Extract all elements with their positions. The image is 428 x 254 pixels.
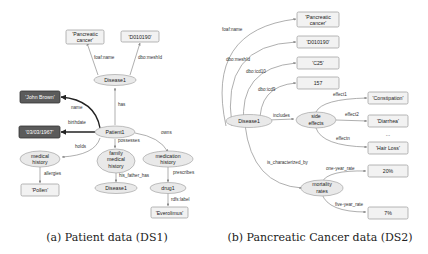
node-b-157: 157 <box>297 77 339 89</box>
edge-b-is-characterized-by <box>245 125 302 188</box>
label-holds: holds <box>75 144 87 149</box>
ellipsis: ... <box>386 131 390 137</box>
edge-owns <box>135 133 168 152</box>
label-b-foaf-name: foaf:name <box>222 27 243 32</box>
node-b-constipation: 'Constipation' <box>368 92 408 104</box>
svg-text:history: history <box>160 159 176 165</box>
svg-text:'D010190': 'D010190' <box>128 34 151 40</box>
label-rdfs-label: rdfs:label <box>171 197 190 202</box>
svg-text:20%: 20% <box>383 168 394 174</box>
node-pancreatic-cancer-a: 'Pancreatic cancer' <box>66 30 104 44</box>
svg-text:rates: rates <box>316 188 328 194</box>
svg-text:'Constipation': 'Constipation' <box>373 95 404 101</box>
label-b-includes: includes <box>273 113 291 118</box>
node-b-20pct: 20% <box>368 165 408 177</box>
label-b-effect2: effect2 <box>345 112 359 117</box>
node-john-brown: 'John Brown' <box>20 91 60 103</box>
label-possesses: possesses <box>118 138 140 143</box>
label-b-effect1: effect1 <box>333 92 347 97</box>
node-pollen: 'Pollen' <box>21 184 59 196</box>
node-b-side-effects: side effects <box>296 112 336 128</box>
label-owns: owns <box>161 130 172 135</box>
svg-text:'John Brown': 'John Brown' <box>25 94 54 100</box>
label-b-effectn: effectn <box>336 136 350 141</box>
svg-text:'Diarrhea': 'Diarrhea' <box>377 118 399 124</box>
diagram-a: foaf:name dbo:meshId has name birthdate … <box>19 30 195 244</box>
svg-text:Disease1: Disease1 <box>104 77 126 83</box>
node-b-mortality-rates: mortality rates <box>301 180 343 196</box>
diagram-b: foaf:name dbo:meshId dbo:icd10 dbo:icd9 … <box>222 12 413 244</box>
svg-text:family: family <box>109 150 123 156</box>
node-birthdate: '03/03/1967' <box>19 126 60 138</box>
node-disease1-a-bottom: Disease1 <box>95 183 137 194</box>
node-b-d010190: 'D010190' <box>297 36 339 48</box>
svg-text:mortality: mortality <box>312 181 332 187</box>
svg-text:'Hair Loss': 'Hair Loss' <box>376 145 400 151</box>
label-b-dbo-meshid: dbo:meshId <box>226 57 250 62</box>
caption-a: (a) Patient data (DS1) <box>46 231 168 244</box>
node-b-pancreatic-cancer: 'Pancreatic cancer' <box>297 12 339 27</box>
svg-text:7%: 7% <box>384 210 392 216</box>
edge-b-effect1 <box>316 98 367 112</box>
node-disease1-a: Disease1 <box>94 75 136 86</box>
node-everolimus: 'Everolimus' <box>151 207 188 218</box>
svg-text:effects: effects <box>308 120 324 126</box>
node-b-c25: 'C25' <box>297 57 339 69</box>
node-b-hair-loss: 'Hair Loss' <box>368 142 408 154</box>
label-b-is-characterized-by: is_characterized_by <box>267 160 309 165</box>
svg-text:157: 157 <box>314 80 323 86</box>
svg-text:drug1: drug1 <box>161 185 174 191</box>
svg-text:'D010190': 'D010190' <box>306 39 329 45</box>
svg-text:medical: medical <box>107 156 125 162</box>
node-family-medical-history: family medical history <box>97 149 135 173</box>
node-drug1: drug1 <box>150 183 186 194</box>
svg-text:'03/03/1967': '03/03/1967' <box>26 129 54 135</box>
svg-text:history: history <box>32 159 48 165</box>
node-medical-history: medical history <box>20 151 60 167</box>
node-b-disease1: Disease1 <box>226 115 272 128</box>
diagram-canvas: foaf:name dbo:meshId has name birthdate … <box>0 0 428 254</box>
node-medication-history: medication history <box>143 151 193 167</box>
label-b-one-year-rate: one-year_rate <box>326 166 355 171</box>
label-birthdate: birthdate <box>68 120 86 125</box>
svg-text:'Pollen': 'Pollen' <box>32 187 48 193</box>
svg-text:side: side <box>311 113 321 119</box>
svg-text:'Everolimus': 'Everolimus' <box>156 210 184 216</box>
svg-text:Patient1: Patient1 <box>105 129 124 135</box>
node-patient1: Patient1 <box>95 126 135 138</box>
svg-text:Disease1: Disease1 <box>238 118 260 124</box>
label-b-dbo-icd9: dbo:icd9 <box>258 87 276 92</box>
svg-text:'C25': 'C25' <box>312 60 324 66</box>
svg-text:cancer': cancer' <box>77 37 94 43</box>
label-name: name <box>71 105 83 110</box>
node-b-7pct: 7% <box>368 207 408 219</box>
svg-text:medical: medical <box>31 153 49 159</box>
label-prescribes: prescribes <box>173 170 195 175</box>
caption-b: (b) Pancreatic Cancer data (DS2) <box>227 231 412 244</box>
label-b-dbo-icd10: dbo:icd10 <box>246 69 266 74</box>
svg-text:medication: medication <box>155 153 180 159</box>
label-foaf-name: foaf:name <box>94 55 115 60</box>
label-allergies: allergies <box>44 171 62 176</box>
label-b-five-year-rate: five-year_rate <box>335 202 364 207</box>
edge-b-effect2 <box>336 120 367 121</box>
node-b-diarrhea: 'Diarrhea' <box>368 115 408 127</box>
label-his-father-has: his_father_has <box>119 173 150 178</box>
svg-text:history: history <box>108 163 124 169</box>
svg-text:cancer': cancer' <box>310 20 327 26</box>
label-has: has <box>118 102 126 107</box>
label-dbo-meshid: dbo:meshId <box>138 55 162 60</box>
node-d010190-a: 'D010190' <box>121 31 159 42</box>
svg-text:Disease1: Disease1 <box>105 185 127 191</box>
